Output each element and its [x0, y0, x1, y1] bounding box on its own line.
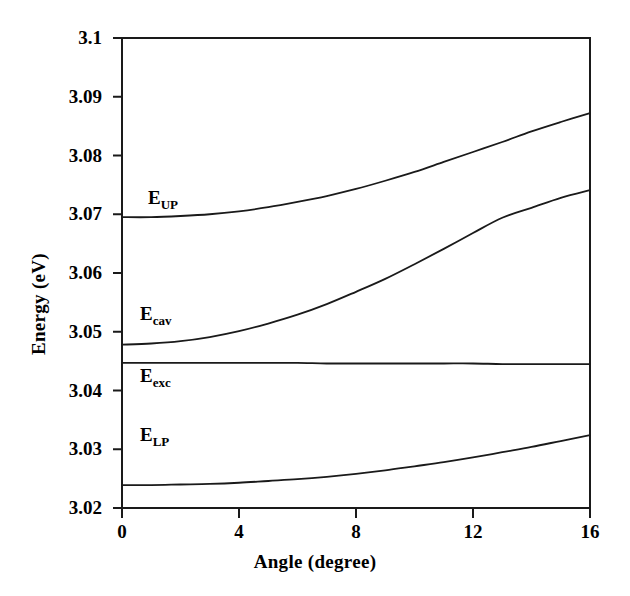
y-axis-label: Energy (eV) — [28, 253, 50, 355]
x-tick-label-4: 4 — [216, 521, 262, 543]
x-tick-label-0: 0 — [99, 521, 145, 543]
curve-label-cavity: Ecav — [140, 303, 171, 329]
plot-frame — [122, 38, 590, 508]
x-tick-label-12: 12 — [450, 521, 496, 543]
curve-label-exc-base: E — [140, 365, 153, 386]
curve-label-up-sub: UP — [161, 197, 178, 212]
x-axis-ticks — [122, 508, 590, 518]
curve-label-lp-sub: LP — [153, 434, 170, 449]
curve-label-lp-base: E — [140, 424, 153, 445]
x-axis-label: Angle (degree) — [0, 551, 630, 573]
curve-label-exc-sub: exc — [153, 375, 171, 390]
axes-frame — [122, 38, 590, 508]
curve-label-cav-base: E — [140, 303, 153, 324]
x-tick-label-16: 16 — [567, 521, 613, 543]
polariton-dispersion-figure: 3.1 3.09 3.08 3.07 3.06 3.05 3.04 3.03 3… — [0, 0, 630, 596]
y-tick-label-3.09: 3.09 — [36, 86, 102, 108]
curve-label-cav-sub: cav — [153, 313, 172, 328]
y-tick-label-3.1: 3.1 — [36, 27, 102, 49]
curve-label-upper-polariton: EUP — [148, 187, 178, 213]
curve-label-exciton: Eexc — [140, 365, 171, 391]
y-tick-label-3.02: 3.02 — [36, 497, 102, 519]
curve-label-lower-polariton: ELP — [140, 424, 169, 450]
x-tick-label-8: 8 — [333, 521, 379, 543]
y-axis-ticks — [113, 38, 122, 508]
y-tick-label-3.08: 3.08 — [36, 145, 102, 167]
y-tick-label-3.03: 3.03 — [36, 438, 102, 460]
y-tick-label-3.04: 3.04 — [36, 380, 102, 402]
y-axis-label-container: Energy (eV) — [2, 185, 34, 365]
y-tick-label-3.07: 3.07 — [36, 203, 102, 225]
curve-label-up-base: E — [148, 187, 161, 208]
